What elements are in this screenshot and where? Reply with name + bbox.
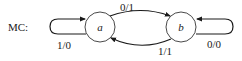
transition-b-b-label: 0/0	[207, 38, 222, 50]
self-loop-b-arrow	[196, 19, 233, 34]
transition-b-b: 0/0	[196, 19, 233, 50]
state-a: a	[85, 12, 115, 42]
state-b-label: b	[178, 21, 184, 33]
diagram-title: MC:	[8, 21, 28, 33]
transition-a-b: 0/1	[110, 1, 170, 16]
state-a-label: a	[97, 21, 103, 33]
transition-b-a-label: 1/1	[158, 45, 172, 57]
transition-a-b-label: 0/1	[120, 1, 134, 13]
transition-a-a: 1/0	[50, 19, 86, 51]
transition-b-a: 1/1	[111, 38, 172, 57]
state-diagram: MC: a b 1/0 0/1 1/1 0/0	[0, 0, 242, 61]
state-b: b	[166, 12, 196, 42]
transition-a-a-label: 1/0	[57, 39, 72, 51]
self-loop-a-arrow	[50, 19, 86, 34]
